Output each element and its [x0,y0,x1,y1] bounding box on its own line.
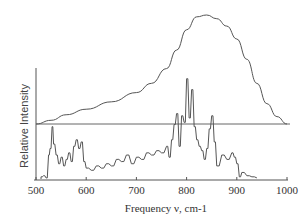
envelope-curve [36,15,287,124]
x-tick-label: 1000 [276,184,299,196]
x-tick-label: 900 [229,184,246,196]
plot-area: 5006007008009001000 [28,15,299,196]
spectrum-chart: 5006007008009001000 Frequency ν, cm-1 Re… [0,0,308,221]
x-tick-label: 800 [178,184,195,196]
x-tick-label: 700 [128,184,145,196]
x-tick-label: 600 [78,184,95,196]
x-tick-label: 500 [28,184,45,196]
x-axis-title: Frequency ν, cm-1 [125,202,207,214]
y-axis-title: Relative Intensity [18,84,30,168]
series-layer [36,15,287,179]
spectrum-line [41,79,257,179]
